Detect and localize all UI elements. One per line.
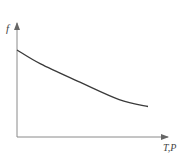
series-line-f [17,50,148,107]
y-axis-label: f [6,22,11,34]
x-axis-label: T,P [163,142,176,153]
chart-canvas: f T,P [0,0,187,159]
